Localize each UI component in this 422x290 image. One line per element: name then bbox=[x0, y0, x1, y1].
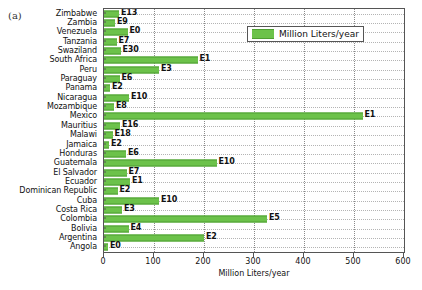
bar bbox=[104, 57, 198, 64]
bar-value-label: E6 bbox=[128, 148, 139, 157]
bar-row: E2 bbox=[104, 140, 404, 149]
bar bbox=[104, 206, 122, 213]
legend-label: Million Liters/year bbox=[279, 29, 359, 39]
bar bbox=[104, 160, 217, 167]
y-axis-tick bbox=[103, 50, 106, 51]
bar-value-label: E30 bbox=[123, 45, 139, 54]
bar-row: E4 bbox=[104, 224, 404, 233]
y-axis-tick bbox=[103, 171, 106, 172]
y-axis-tick bbox=[103, 115, 106, 116]
bar-value-label: E2 bbox=[111, 139, 122, 148]
bar-value-label: E0 bbox=[110, 242, 121, 251]
x-axis-tick-label: 100 bbox=[145, 257, 160, 266]
y-axis-label-argentina: Argentina bbox=[59, 232, 97, 241]
bar-row: E1 bbox=[104, 56, 404, 65]
bar-row: E10 bbox=[104, 196, 404, 205]
y-axis-tick bbox=[103, 236, 106, 237]
x-axis-tick-label: 300 bbox=[245, 257, 260, 266]
y-axis-tick bbox=[103, 180, 106, 181]
x-axis-ticks: 0100200300400500600 bbox=[103, 253, 405, 269]
bar-row: E0 bbox=[104, 243, 404, 252]
bar bbox=[104, 76, 120, 83]
bar-value-label: E9 bbox=[117, 17, 128, 26]
y-axis-tick bbox=[103, 87, 106, 88]
bar-value-label: E8 bbox=[116, 102, 127, 111]
bar-value-label: E10 bbox=[219, 158, 235, 167]
bar-row: E8 bbox=[104, 102, 404, 111]
bar-value-label: E0 bbox=[130, 27, 141, 36]
y-axis-tick bbox=[103, 96, 106, 97]
bar bbox=[104, 188, 118, 195]
bar-row: E10 bbox=[104, 93, 404, 102]
y-axis-label-jamaica: Jamaica bbox=[66, 139, 97, 148]
x-axis-tick-label: 500 bbox=[345, 257, 360, 266]
bar-row: E1 bbox=[104, 112, 404, 121]
bar-row: E10 bbox=[104, 159, 404, 168]
bar-row: E13 bbox=[104, 9, 404, 18]
bar-row: E7 bbox=[104, 168, 404, 177]
y-axis-tick bbox=[103, 190, 106, 191]
bar-value-label: E13 bbox=[121, 8, 137, 17]
bar-row: E3 bbox=[104, 205, 404, 214]
x-axis-tick-label: 0 bbox=[100, 257, 105, 266]
bar-value-label: E7 bbox=[129, 167, 140, 176]
x-axis-tick-label: 200 bbox=[195, 257, 210, 266]
y-axis-tick bbox=[103, 12, 106, 13]
y-axis-label-tanzania: Tanzania bbox=[63, 36, 97, 45]
y-axis-label-paraguay: Paraguay bbox=[60, 74, 97, 83]
bar-value-label: E10 bbox=[131, 92, 147, 101]
y-axis-label-honduras: Honduras bbox=[59, 148, 97, 157]
y-axis-label-guatemala: Guatemala bbox=[54, 158, 97, 167]
bar-value-label: E4 bbox=[131, 223, 142, 232]
y-axis-tick bbox=[103, 246, 106, 247]
bar-row: E16 bbox=[104, 121, 404, 130]
bar-value-label: E1 bbox=[365, 111, 376, 120]
bar-value-label: E3 bbox=[124, 204, 135, 213]
bar-value-label: E7 bbox=[119, 36, 130, 45]
legend-swatch-icon bbox=[252, 29, 274, 39]
y-axis-label-el-salvador: El Salvador bbox=[53, 167, 97, 176]
bar-row: E3 bbox=[104, 65, 404, 74]
bar bbox=[104, 66, 159, 73]
y-axis-label-angola: Angola bbox=[70, 242, 97, 251]
y-axis-label-panama: Panama bbox=[66, 83, 97, 92]
y-axis-tick bbox=[103, 143, 106, 144]
bar-value-label: E5 bbox=[269, 214, 280, 223]
y-axis-labels: ZimbabweZambiaVenezuelaTanzaniaSwaziland… bbox=[0, 8, 100, 253]
bar bbox=[104, 29, 128, 36]
y-axis-tick bbox=[103, 162, 106, 163]
y-axis-label-mozambique: Mozambique bbox=[47, 102, 97, 111]
bar bbox=[104, 178, 130, 185]
bar-value-label: E18 bbox=[115, 130, 131, 139]
y-axis-label-zambia: Zambia bbox=[67, 18, 97, 27]
bar bbox=[104, 234, 204, 241]
bar bbox=[104, 197, 159, 204]
x-axis-title: Million Liters/year bbox=[103, 269, 405, 278]
bar-row: E5 bbox=[104, 215, 404, 224]
bar-row: E2 bbox=[104, 187, 404, 196]
bar bbox=[104, 113, 363, 120]
y-axis-label-costa-rica: Costa Rica bbox=[56, 204, 97, 213]
y-axis-tick bbox=[103, 152, 106, 153]
chart-figure: (a) ZimbabweZambiaVenezuelaTanzaniaSwazi… bbox=[0, 0, 422, 290]
x-axis-tick-label: 400 bbox=[295, 257, 310, 266]
y-axis-label-venezuela: Venezuela bbox=[57, 27, 97, 36]
y-axis-tick bbox=[103, 218, 106, 219]
bar-value-label: E1 bbox=[200, 55, 211, 64]
y-axis-label-colombia: Colombia bbox=[60, 214, 97, 223]
y-axis-tick bbox=[103, 22, 106, 23]
bar-value-label: E1 bbox=[132, 176, 143, 185]
bar bbox=[104, 225, 129, 232]
y-axis-label-ecuador: Ecuador bbox=[65, 176, 97, 185]
y-axis-label-dominican-republic: Dominican Republic bbox=[19, 186, 97, 195]
y-axis-label-malawi: Malawi bbox=[70, 130, 97, 139]
bar-row: E18 bbox=[104, 131, 404, 140]
y-axis-tick bbox=[103, 59, 106, 60]
bar-value-label: E6 bbox=[122, 74, 133, 83]
y-axis-label-peru: Peru bbox=[80, 64, 97, 73]
y-axis-label-nicaragua: Nicaragua bbox=[57, 92, 97, 101]
bar bbox=[104, 216, 267, 223]
bar-row: E6 bbox=[104, 74, 404, 83]
y-axis-tick bbox=[103, 40, 106, 41]
bar-value-label: E10 bbox=[161, 195, 177, 204]
